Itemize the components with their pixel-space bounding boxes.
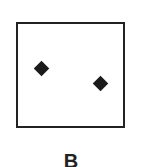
square-frame [16, 22, 125, 128]
figure-label: B [0, 150, 142, 167]
